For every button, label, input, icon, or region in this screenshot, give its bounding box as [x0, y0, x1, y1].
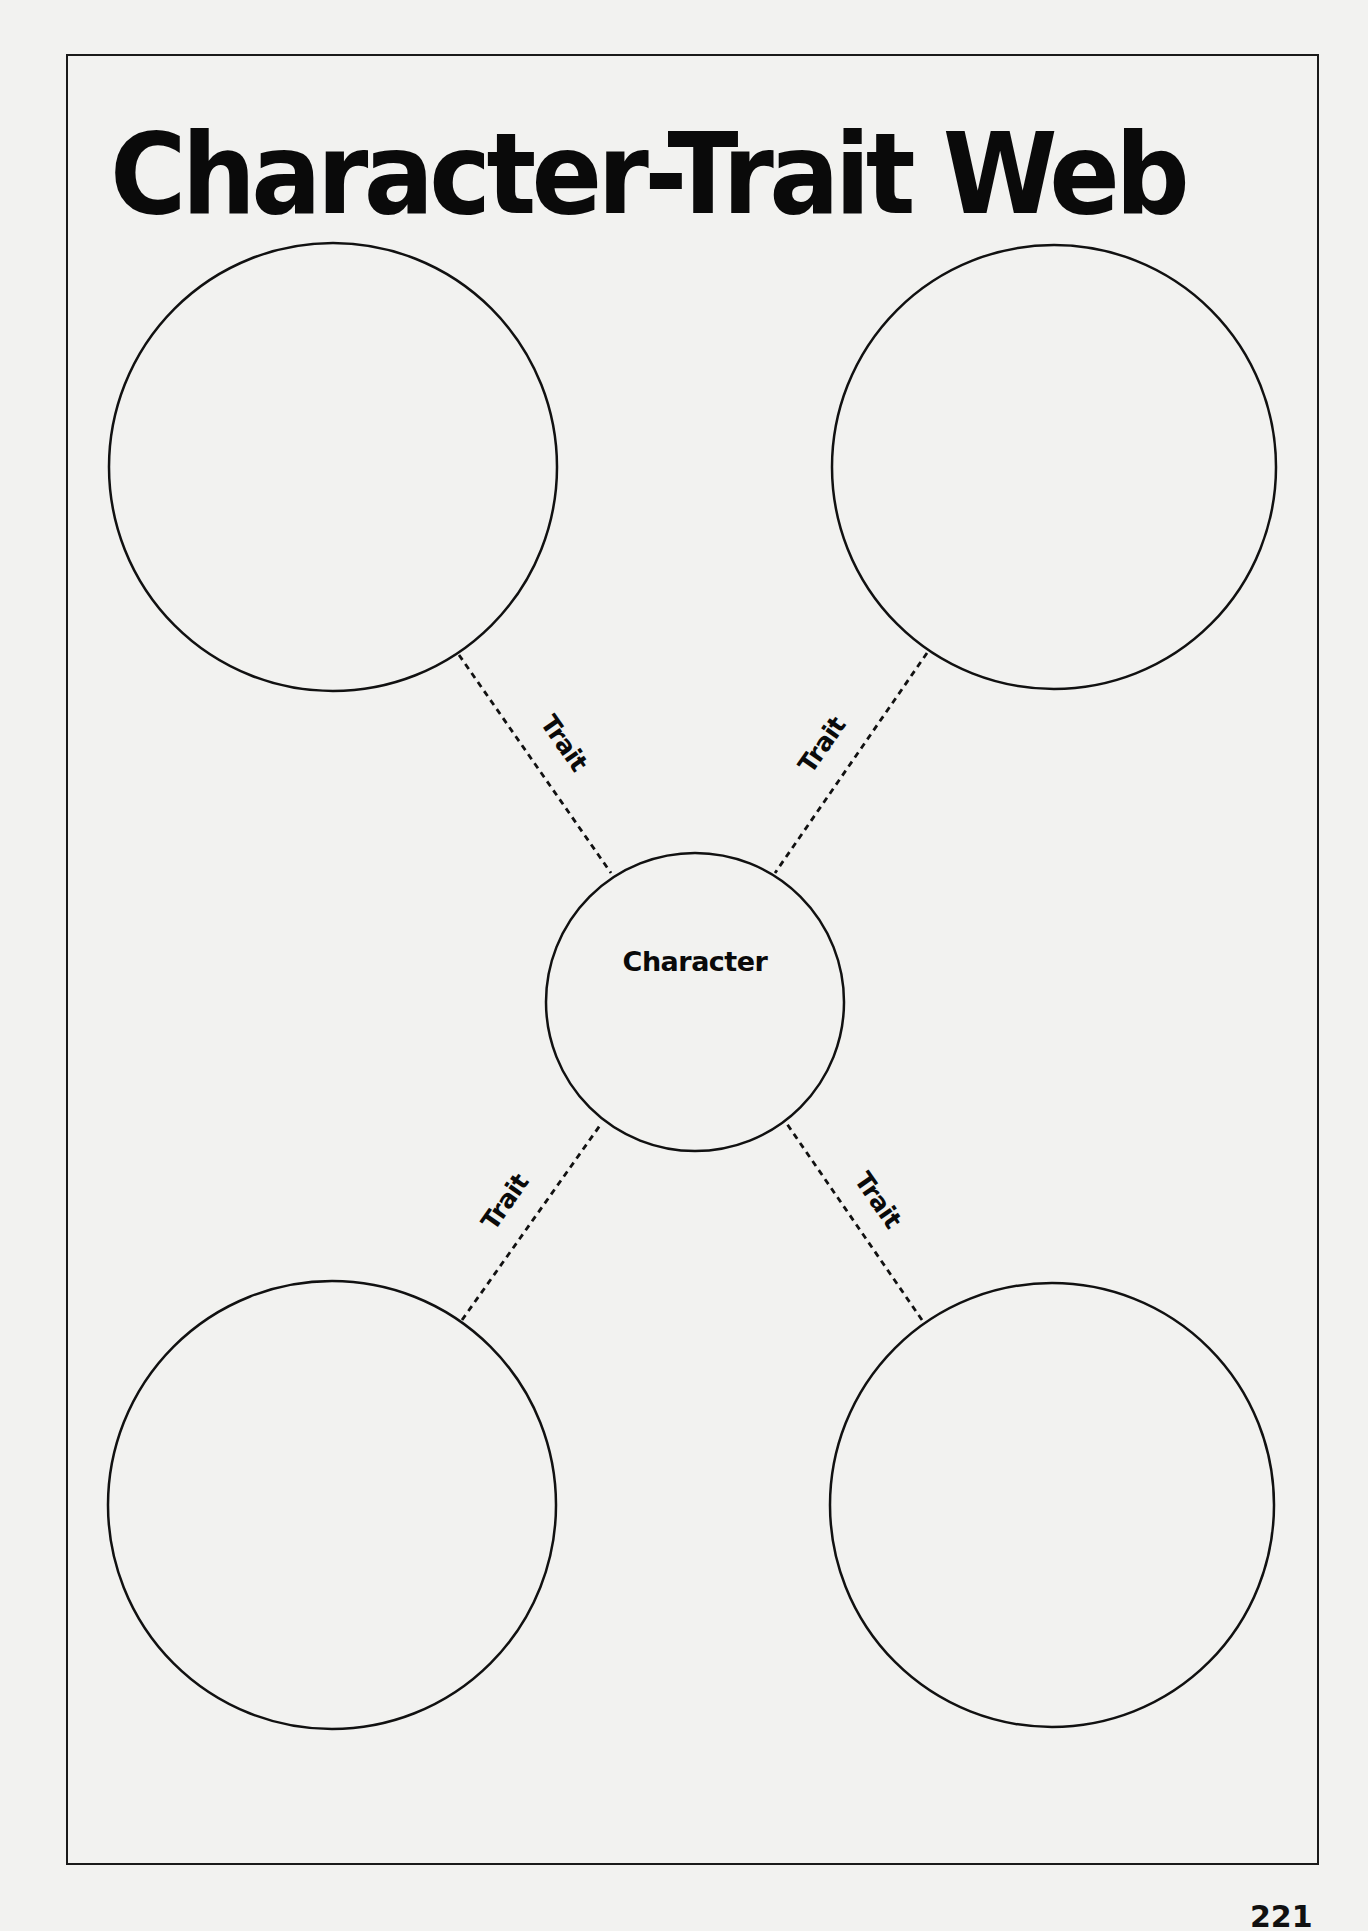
character-label: Character	[623, 946, 768, 977]
page-number: 221	[1250, 1902, 1313, 1931]
character-circle[interactable]	[546, 853, 844, 1151]
trait-circle-bottom-left[interactable]	[108, 1281, 556, 1729]
connector-bottom-right	[787, 1124, 922, 1320]
trait-circle-bottom-right[interactable]	[830, 1283, 1274, 1727]
trait-circle-top-left[interactable]	[109, 243, 557, 691]
trait-circle-top-right[interactable]	[832, 245, 1276, 689]
